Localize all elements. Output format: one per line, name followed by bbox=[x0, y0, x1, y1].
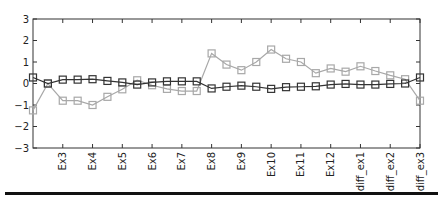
x-tick-label: Ex12 bbox=[325, 152, 336, 177]
x-tick-label: diff_ex2 bbox=[385, 152, 397, 191]
x-tick-label: Ex9 bbox=[236, 152, 247, 171]
x-tick-label: Ex3 bbox=[57, 152, 68, 171]
y-tick-label: 1 bbox=[23, 57, 29, 68]
y-tick-label: 0 bbox=[23, 78, 29, 89]
x-tick-label: diff_ex3 bbox=[415, 152, 427, 191]
y-tick-label: −1 bbox=[14, 100, 29, 111]
x-tick-label: Ex8 bbox=[206, 152, 217, 171]
x-tick-label: Ex10 bbox=[266, 152, 277, 177]
bottom-divider bbox=[5, 192, 438, 195]
x-tick-label: Ex4 bbox=[87, 152, 98, 171]
series-dark bbox=[30, 74, 424, 92]
x-tick-label: Ex5 bbox=[117, 152, 128, 171]
y-tick-label: −2 bbox=[14, 121, 29, 132]
y-tick-label: 3 bbox=[23, 14, 29, 25]
x-axis: Ex3Ex4Ex5Ex6Ex7Ex8Ex9Ex10Ex11Ex12diff_ex… bbox=[57, 19, 426, 191]
series-layer bbox=[30, 46, 424, 114]
x-tick-label: Ex6 bbox=[147, 152, 158, 171]
y-tick-label: −3 bbox=[14, 143, 29, 154]
x-tick-label: Ex11 bbox=[295, 152, 306, 177]
x-tick-label: Ex7 bbox=[176, 152, 187, 171]
line-chart: 3210−1−2−3 Ex3Ex4Ex5Ex6Ex7Ex8Ex9Ex10Ex11… bbox=[0, 0, 444, 198]
x-tick-label: diff_ex1 bbox=[355, 152, 367, 191]
y-tick-label: 2 bbox=[23, 35, 29, 46]
